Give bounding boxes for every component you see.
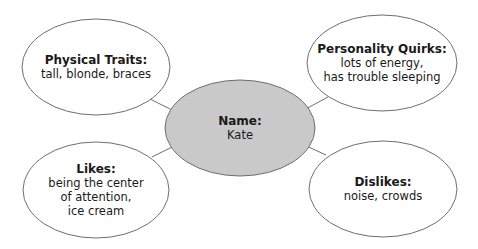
node-text: being the center [48,176,143,190]
node-title: Dislikes: [354,175,411,189]
node-text: lots of energy, [341,56,424,70]
node-personality-quirks: Personality Quirks: lots of energy, has … [307,15,457,111]
node-text: ice cream [68,204,124,218]
node-dislikes: Dislikes: noise, crowds [309,141,457,237]
node-title: Likes: [76,162,116,176]
node-text: tall, blonde, braces [41,67,151,81]
node-text: of attention, [61,190,132,204]
node-text: Kate [227,128,253,142]
node-title: Physical Traits: [45,53,148,67]
node-title: Name: [218,114,262,128]
node-center-name: Name: Kate [165,80,315,176]
node-title: Personality Quirks: [317,42,447,56]
node-text: noise, crowds [344,189,422,203]
node-likes: Likes: being the center of attention, ic… [23,142,169,238]
node-physical-traits: Physical Traits: tall, blonde, braces [22,19,170,115]
node-text: has trouble sleeping [324,70,441,84]
